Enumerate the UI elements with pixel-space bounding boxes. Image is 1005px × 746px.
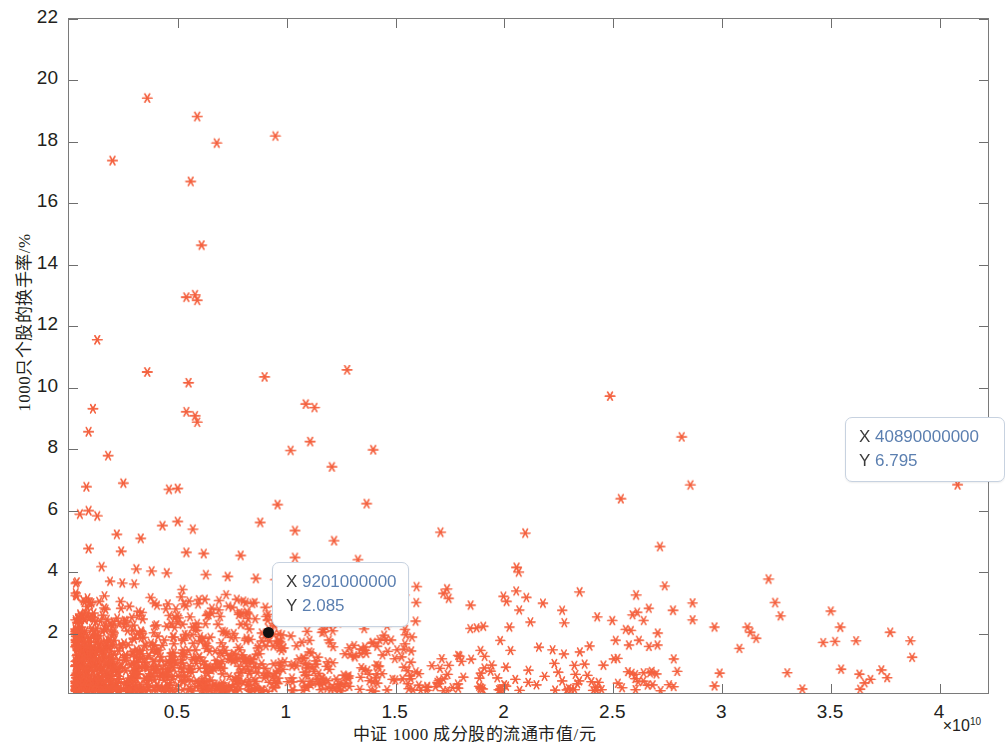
y-tick-mark-right xyxy=(979,388,988,389)
datatip-x-value: 40890000000 xyxy=(875,427,979,446)
plot-area[interactable] xyxy=(68,18,989,694)
x-tick-mark-top xyxy=(396,19,397,28)
y-tick-mark xyxy=(69,572,78,573)
x-tick-mark-top xyxy=(287,19,288,28)
x-tick-mark-top xyxy=(940,19,941,28)
y-tick-mark xyxy=(69,634,78,635)
datatip-x-label: X xyxy=(286,570,302,594)
x-tick-mark-top xyxy=(831,19,832,28)
y-tick-mark xyxy=(69,388,78,389)
y-tick-mark xyxy=(69,80,78,81)
datatip-x-label: X xyxy=(859,425,875,449)
exponent-base: ×10 xyxy=(943,717,970,734)
datatip-marker-dot xyxy=(263,627,274,638)
y-tick-mark xyxy=(69,19,78,20)
y-tick-mark xyxy=(69,449,78,450)
x-tick-mark xyxy=(396,684,397,693)
datatip-x-row: X40890000000 xyxy=(859,425,993,449)
datatip-40890000000[interactable]: X40890000000 Y6.795 xyxy=(845,417,1005,482)
x-tick-mark xyxy=(287,684,288,693)
y-tick-mark-right xyxy=(979,326,988,327)
y-tick-mark-right xyxy=(979,80,988,81)
y-tick-mark xyxy=(69,265,78,266)
y-tick-mark xyxy=(69,203,78,204)
datatip-9201000000[interactable]: X9201000000 Y2.085 xyxy=(272,562,409,627)
datatip-y-label: Y xyxy=(286,594,302,618)
x-axis-title: 中证 1000 成分股的流通市值/元 xyxy=(0,720,989,745)
y-tick-mark-right xyxy=(979,511,988,512)
datatip-x-row: X9201000000 xyxy=(286,570,397,594)
x-tick-mark-top xyxy=(613,19,614,28)
y-tick-mark-right xyxy=(979,203,988,204)
y-tick-mark xyxy=(69,142,78,143)
x-axis-title-text: 中证 1000 成分股的流通市值/元 xyxy=(353,720,596,745)
x-tick-mark-top xyxy=(178,19,179,28)
x-tick-mark-top xyxy=(504,19,505,28)
datatip-y-value: 2.085 xyxy=(302,596,345,615)
datatip-y-label: Y xyxy=(859,449,875,473)
scatter-points-layer xyxy=(69,19,988,693)
y-tick-label: 22 xyxy=(12,6,58,28)
datatip-y-value: 6.795 xyxy=(875,451,918,470)
y-tick-label: 2 xyxy=(12,621,58,643)
y-tick-mark-right xyxy=(979,634,988,635)
x-tick-mark xyxy=(178,684,179,693)
y-tick-mark-right xyxy=(979,19,988,20)
x-axis-exponent-label: ×1010 xyxy=(943,716,981,735)
y-tick-mark xyxy=(69,326,78,327)
y-tick-mark xyxy=(69,511,78,512)
y-tick-mark-right xyxy=(979,265,988,266)
x-tick-mark xyxy=(722,684,723,693)
y-axis-title: 1000只个股的换手率/% xyxy=(10,83,35,563)
x-tick-mark xyxy=(613,684,614,693)
x-tick-mark xyxy=(504,684,505,693)
exponent-power: 10 xyxy=(970,716,981,727)
x-tick-mark xyxy=(940,684,941,693)
datatip-x-value: 9201000000 xyxy=(302,572,397,591)
x-tick-mark xyxy=(831,684,832,693)
datatip-y-row: Y6.795 xyxy=(859,449,993,473)
y-tick-mark-right xyxy=(979,572,988,573)
datatip-y-row: Y2.085 xyxy=(286,594,397,618)
x-tick-mark-top xyxy=(722,19,723,28)
y-tick-mark-right xyxy=(979,142,988,143)
